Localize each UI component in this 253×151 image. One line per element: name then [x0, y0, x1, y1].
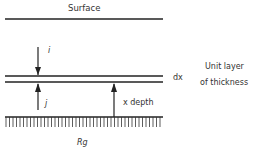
downward-flux-label: i: [48, 47, 50, 55]
ground-hatching: [6, 117, 160, 127]
depth-arrowhead-icon: [111, 83, 117, 92]
unit-layer-label: Unit layer: [205, 63, 244, 71]
layer-thickness-label: dx: [173, 74, 183, 82]
diagram-canvas: [0, 0, 253, 151]
ground-reflectance-label: Rg: [77, 139, 88, 147]
thickness-label: of thickness: [200, 79, 248, 87]
upward-flux-label: j: [45, 100, 47, 108]
downward-arrowhead-icon: [35, 67, 41, 75]
upward-arrowhead-icon: [35, 83, 41, 92]
depth-label: x depth: [123, 99, 154, 107]
surface-label: Surface: [68, 4, 100, 13]
